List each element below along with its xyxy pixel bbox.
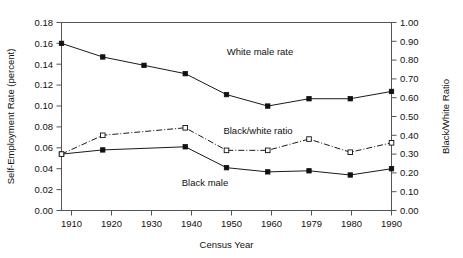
right-y-tick-label: 0.50 <box>400 111 419 122</box>
data-point-marker <box>100 133 105 138</box>
right-y-tick-label: 0.20 <box>400 167 419 178</box>
right-y-tick-label: 0.90 <box>400 36 419 47</box>
left-y-tick-label: 0.06 <box>35 142 54 153</box>
data-point-marker <box>389 167 393 171</box>
data-point-marker <box>307 97 311 101</box>
left-y-tick-label: 0.00 <box>35 205 54 216</box>
right-y-tick-label: 0.70 <box>400 73 419 84</box>
data-point-marker <box>101 148 105 152</box>
left-y-tick-label: 0.12 <box>35 79 54 90</box>
data-point-marker <box>266 170 270 174</box>
left-y-tick-label: 0.02 <box>35 184 54 195</box>
right-y-tick-label: 0.60 <box>400 92 419 103</box>
data-point-marker <box>348 150 353 155</box>
data-point-marker <box>389 141 394 146</box>
data-point-marker <box>224 92 228 96</box>
data-point-marker <box>224 165 228 169</box>
x-tick-label: 1990 <box>381 218 402 229</box>
right-y-tick-label: 0.30 <box>400 148 419 159</box>
right-y-tickmarks <box>392 23 397 211</box>
left-y-axis-title: Self-Employment Rate (percent) <box>5 49 16 185</box>
x-tickmarks <box>72 211 392 216</box>
data-point-marker <box>183 145 187 149</box>
data-point-marker <box>389 89 393 93</box>
left-y-tick-label: 0.14 <box>35 59 54 70</box>
data-point-marker <box>266 104 270 108</box>
x-tick-label: 1920 <box>101 218 122 229</box>
right-y-tick-label: 0.80 <box>400 54 419 65</box>
left-y-tick-label: 0.04 <box>35 163 54 174</box>
data-point-marker <box>101 55 105 59</box>
chart-figure: 0.00 0.02 0.04 0.06 0.08 0.10 0.12 0.14 … <box>0 0 463 258</box>
annotation-black-male: Black male <box>182 177 228 188</box>
right-y-tick-label: 0.40 <box>400 130 419 141</box>
data-point-marker <box>183 125 188 130</box>
data-point-marker <box>224 148 229 153</box>
right-y-axis: 0.00 0.10 0.20 0.30 0.40 0.50 0.60 0.70 … <box>392 17 452 216</box>
data-point-marker <box>183 71 187 75</box>
x-tick-label: 1950 <box>221 218 242 229</box>
left-y-tick-label: 0.16 <box>35 38 54 49</box>
data-point-marker <box>307 137 312 142</box>
annotation-white-male-rate: White male rate <box>227 46 294 57</box>
series-annotations: White male rate Black/white ratio Black … <box>182 46 294 188</box>
x-tick-label: 1980 <box>341 218 362 229</box>
left-y-axis: 0.00 0.02 0.04 0.06 0.08 0.10 0.12 0.14 … <box>5 17 62 216</box>
left-y-tick-label: 0.10 <box>35 100 54 111</box>
data-point-marker <box>348 97 352 101</box>
left-y-tick-label: 0.08 <box>35 121 54 132</box>
x-tick-label: 1979 <box>301 218 322 229</box>
series-layer <box>59 41 394 177</box>
right-y-axis-title: Black/White Ratio <box>440 79 451 154</box>
left-y-tickmarks <box>57 23 62 211</box>
right-y-tick-label: 0.00 <box>400 205 419 216</box>
x-tick-label: 1940 <box>181 218 202 229</box>
annotation-black-white-ratio: Black/white ratio <box>223 125 292 136</box>
x-tick-label: 1910 <box>61 218 82 229</box>
data-point-marker <box>265 148 270 153</box>
data-point-marker <box>142 63 146 67</box>
left-y-tick-label: 0.18 <box>35 17 54 28</box>
x-axis-title: Census Year <box>200 239 254 250</box>
x-axis: 1910 1920 1930 1940 1950 1960 1979 1980 … <box>61 211 402 251</box>
data-point-marker <box>348 173 352 177</box>
data-point-marker <box>59 41 63 45</box>
data-point-marker <box>59 152 64 157</box>
line-chart-svg: 0.00 0.02 0.04 0.06 0.08 0.10 0.12 0.14 … <box>0 0 463 258</box>
x-tick-label: 1960 <box>261 218 282 229</box>
x-tick-label: 1930 <box>141 218 162 229</box>
right-y-tick-label: 1.00 <box>400 17 419 28</box>
data-point-marker <box>307 169 311 173</box>
right-y-tick-label: 0.10 <box>400 186 419 197</box>
